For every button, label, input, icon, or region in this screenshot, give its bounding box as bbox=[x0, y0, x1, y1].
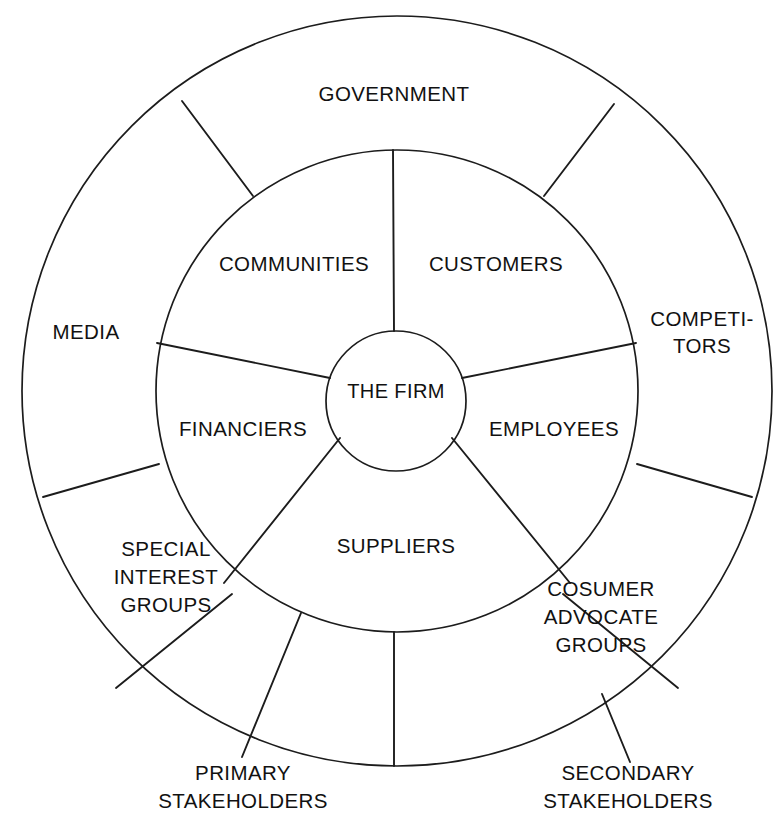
stakeholder-diagram: THE FIRM COMMUNITIES CUSTOMERS EMPLOYEES… bbox=[0, 0, 780, 832]
stakeholder-diagram-canvas: THE FIRM COMMUNITIES CUSTOMERS EMPLOYEES… bbox=[0, 0, 780, 832]
divider-suppliers-financiers bbox=[224, 438, 340, 583]
caption-secondary-stakeholders-line2: STAKEHOLDERS bbox=[543, 789, 713, 812]
divider-customers-employees bbox=[462, 343, 636, 378]
inner-sector-label-employees: EMPLOYEES bbox=[489, 417, 619, 440]
divider-media-special-interest-groups bbox=[43, 464, 159, 497]
pointer-primary-stakeholders bbox=[242, 613, 301, 757]
inner-sector-label-financiers: FINANCIERS bbox=[179, 417, 307, 440]
outer-sector-label-special-interest-groups-line1: SPECIAL bbox=[121, 537, 210, 560]
inner-sector-label-communities: COMMUNITIES bbox=[219, 252, 369, 275]
pointer-secondary-stakeholders bbox=[602, 694, 630, 762]
divider-employees-suppliers bbox=[452, 438, 570, 583]
outer-sector-label-special-interest-groups-line2: INTEREST bbox=[114, 565, 219, 588]
divider-government-competitors bbox=[544, 104, 614, 196]
divider-communities-customers bbox=[393, 150, 394, 331]
caption-primary-stakeholders-line2: STAKEHOLDERS bbox=[158, 789, 328, 812]
outer-sector-label-consumer-advocate-groups-line3: GROUPS bbox=[555, 633, 646, 656]
outer-sector-label-government: GOVERNMENT bbox=[319, 82, 470, 105]
core-label: THE FIRM bbox=[347, 380, 445, 402]
outer-sector-label-media: MEDIA bbox=[53, 320, 120, 343]
outer-sector-label-consumer-advocate-groups-line2: ADVOCATE bbox=[544, 605, 658, 628]
outer-sector-label-competitors-line1: COMPETI- bbox=[650, 307, 753, 330]
divider-financiers-communities bbox=[157, 343, 330, 378]
outer-sector-label-consumer-advocate-groups-line1: COSUMER bbox=[547, 577, 655, 600]
divider-competitors-consumer-advocate-groups bbox=[637, 464, 752, 497]
outer-sector-label-competitors-line2: TORS bbox=[673, 334, 731, 357]
inner-sector-label-customers: CUSTOMERS bbox=[429, 252, 563, 275]
divider-media-government bbox=[182, 101, 253, 196]
outer-sector-label-special-interest-groups-line3: GROUPS bbox=[120, 593, 211, 616]
caption-primary-stakeholders-line1: PRIMARY bbox=[195, 761, 291, 784]
caption-secondary-stakeholders-line1: SECONDARY bbox=[561, 761, 694, 784]
inner-sector-label-suppliers: SUPPLIERS bbox=[337, 534, 456, 557]
